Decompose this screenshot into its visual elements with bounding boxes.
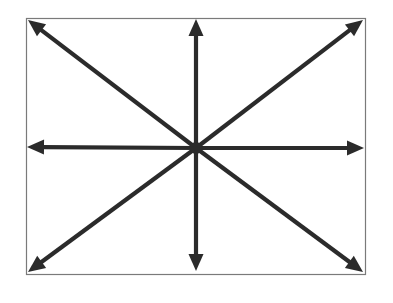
center-hub-group xyxy=(190,142,202,154)
diagram-canvas xyxy=(0,0,393,303)
arrow-west-shaft xyxy=(42,147,196,148)
center-point xyxy=(190,142,202,154)
radial-arrow-diagram xyxy=(0,0,393,303)
